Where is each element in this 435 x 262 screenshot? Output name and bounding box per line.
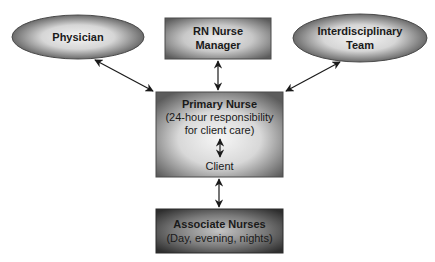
interdisciplinary-primary-nurse-arrow <box>286 62 340 91</box>
primary-nurse-title: Primary Nurse <box>182 98 257 110</box>
interdisciplinary-team-label-line1: Interdisciplinary <box>318 25 404 37</box>
physician-primary-nurse-arrow <box>95 60 153 91</box>
rn-nurse-manager-label-line2: Manager <box>195 39 241 51</box>
physician-node: Physician <box>12 15 144 59</box>
associate-nurses-title: Associate Nurses <box>173 218 265 230</box>
rn-nurse-manager-node: RN Nurse Manager <box>165 18 271 59</box>
primary-nurse-subtitle-line2: for client care) <box>185 124 255 136</box>
associate-nurses-node: Associate Nurses (Day, evening, nights) <box>156 209 283 253</box>
client-label: Client <box>205 160 233 172</box>
associate-nurses-subtitle: (Day, evening, nights) <box>166 232 272 244</box>
rn-nurse-manager-label-line1: RN Nurse <box>193 25 243 37</box>
associate-nurses-box <box>156 209 283 253</box>
interdisciplinary-team-ellipse <box>293 14 427 62</box>
care-delivery-diagram: Physician RN Nurse Manager Interdiscipli… <box>0 0 435 262</box>
primary-nurse-node: Primary Nurse (24-hour responsibility fo… <box>156 92 283 177</box>
interdisciplinary-team-node: Interdisciplinary Team <box>293 14 427 62</box>
interdisciplinary-team-label-line2: Team <box>346 39 374 51</box>
physician-label: Physician <box>52 31 104 43</box>
primary-nurse-subtitle-line1: (24-hour responsibility <box>165 111 274 123</box>
